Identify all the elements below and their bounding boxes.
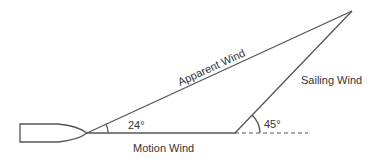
angle-label-sailing: 45° [264, 118, 281, 130]
apparent-wind-label: Apparent Wind [176, 47, 247, 88]
sailing-wind-label: Sailing Wind [301, 74, 362, 86]
angle-arc-apparent [106, 124, 108, 133]
wind-vector-diagram: Apparent Wind Sailing Wind Motion Wind 2… [0, 0, 375, 163]
apparent-wind-line [87, 11, 352, 133]
motion-wind-label: Motion Wind [133, 142, 194, 154]
boat-hull-icon [20, 124, 87, 142]
angle-label-apparent: 24° [128, 119, 145, 131]
angle-arc-sailing [252, 115, 260, 133]
